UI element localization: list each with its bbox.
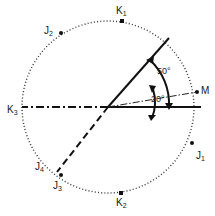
label-j3: J3 xyxy=(53,180,62,192)
label-j4: J4 xyxy=(35,161,44,173)
rotation-diagram: K1 K2 K3 J1 J2 J3 J4 M 50° 20° xyxy=(0,0,215,216)
point-marker-k2 xyxy=(119,191,123,195)
label-j2: J2 xyxy=(44,25,53,37)
line-to-j3 xyxy=(57,107,108,172)
arrowhead-20-bottom xyxy=(148,115,156,121)
label-k2: K2 xyxy=(116,197,127,209)
label-j1: J1 xyxy=(196,150,205,162)
arrowhead-20-top xyxy=(149,85,156,93)
angle-label-50: 50° xyxy=(157,66,171,76)
label-m: M xyxy=(201,85,209,96)
angle-label-20: 20° xyxy=(151,94,165,104)
point-marker-j3 xyxy=(59,173,63,177)
point-marker-j2 xyxy=(59,31,63,35)
point-marker-j1 xyxy=(190,141,194,145)
point-marker-m xyxy=(195,90,199,94)
label-k3: K3 xyxy=(7,104,18,116)
label-k1: K1 xyxy=(116,5,127,17)
point-marker-k1 xyxy=(120,19,124,23)
